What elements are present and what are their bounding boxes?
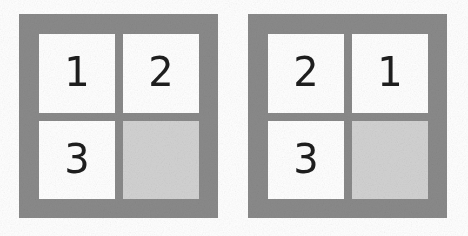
left-grid: 1 2 3 xyxy=(19,14,218,218)
tile-label: 1 xyxy=(64,52,89,92)
left-grid-cell-top-right[interactable]: 2 xyxy=(123,34,199,113)
tile-label: 2 xyxy=(148,52,173,92)
left-grid-inner: 1 2 3 xyxy=(39,34,199,199)
tile-label: 3 xyxy=(293,139,318,179)
figure-root: 1 2 3 2 1 3 xyxy=(0,0,468,236)
tile-label: 1 xyxy=(377,52,402,92)
right-grid-cell-top-right[interactable]: 1 xyxy=(352,34,428,113)
right-grid-inner: 2 1 3 xyxy=(268,34,428,199)
tile-label: 2 xyxy=(293,52,318,92)
left-grid-cell-bottom-left[interactable]: 3 xyxy=(39,121,115,200)
right-grid-cell-bottom-right-empty[interactable] xyxy=(352,121,428,200)
tile-label: 3 xyxy=(64,139,89,179)
left-grid-cell-top-left[interactable]: 1 xyxy=(39,34,115,113)
right-grid: 2 1 3 xyxy=(248,14,447,218)
right-grid-cell-top-left[interactable]: 2 xyxy=(268,34,344,113)
left-grid-cell-bottom-right-empty[interactable] xyxy=(123,121,199,200)
right-grid-cell-bottom-left[interactable]: 3 xyxy=(268,121,344,200)
